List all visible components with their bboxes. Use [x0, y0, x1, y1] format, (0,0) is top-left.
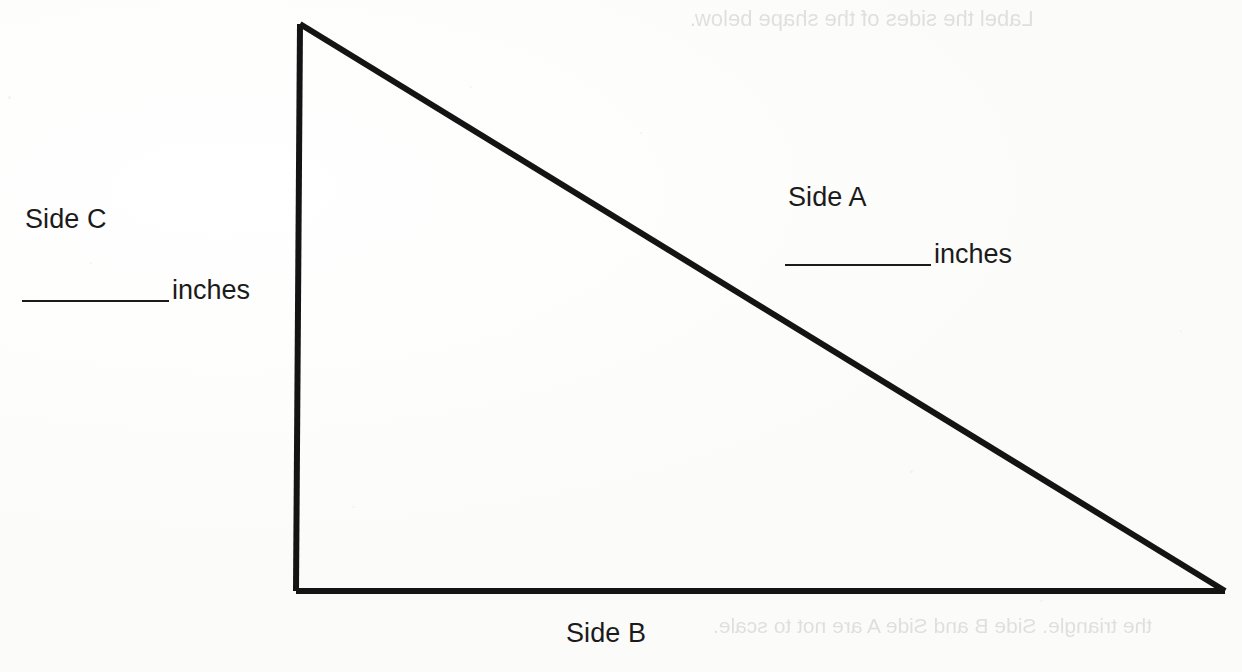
scan-speck [640, 132, 642, 134]
side-a-answer-blank[interactable] [785, 244, 931, 266]
side-a-edge [300, 24, 1225, 591]
side-c-edge [296, 24, 300, 591]
side-b-label: Side B [566, 620, 646, 647]
side-a-label: Side A [788, 184, 867, 211]
paper-background [0, 0, 1242, 672]
side-a-unit-label: inches [931, 241, 1012, 268]
side-c-answer-blank[interactable] [22, 280, 169, 302]
scan-speck [1040, 600, 1043, 602]
scan-speck [90, 262, 92, 264]
side-c-answer-group[interactable]: inches [22, 275, 250, 302]
scan-speck [352, 506, 355, 508]
scan-speck [8, 96, 11, 99]
side-a-answer-group[interactable]: inches [785, 239, 1012, 266]
ghost-text-bottom: the triangle. Side B and Side A are not … [713, 614, 1152, 638]
worksheet-page: Label the sides of the shape below. the … [0, 0, 1242, 672]
scan-speck [910, 470, 913, 473]
side-c-unit-label: inches [169, 277, 250, 304]
scan-speck [470, 86, 472, 88]
scan-speck [1180, 330, 1182, 332]
side-c-label: Side C [25, 206, 107, 233]
ghost-text-top: Label the sides of the shape below. [690, 6, 1034, 32]
right-triangle-figure [0, 0, 1242, 672]
